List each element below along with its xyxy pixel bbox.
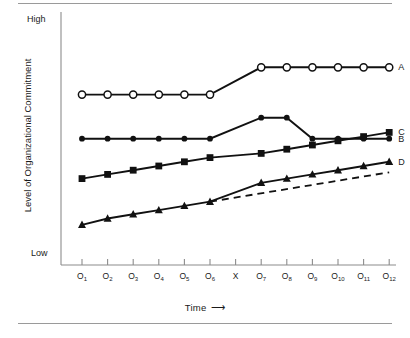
series-b-point-6 xyxy=(207,136,213,142)
series-layer xyxy=(78,64,393,228)
series-b-point-5 xyxy=(182,136,188,142)
series-a-point-5 xyxy=(181,91,188,98)
x-tick-label-o6: O6 xyxy=(205,271,215,281)
x-tick-label-o7: O7 xyxy=(256,271,266,281)
x-tick-label-o11: O11 xyxy=(357,271,370,281)
x-tick-label-x: X xyxy=(233,271,239,281)
series-line-a xyxy=(82,67,389,94)
figure-container: High Low Level of Organizational Commitm… xyxy=(0,0,410,338)
series-a-point-8 xyxy=(283,64,290,71)
series-a-point-2 xyxy=(104,91,111,98)
series-line-b xyxy=(82,118,389,139)
x-axis-ticks xyxy=(82,259,389,265)
series-a-point-7 xyxy=(258,64,265,71)
x-tick-label-o10: O10 xyxy=(331,271,344,281)
x-tick-label-o4: O4 xyxy=(154,271,164,281)
series-a-point-4 xyxy=(155,91,162,98)
series-c-point-7 xyxy=(258,150,265,157)
series-b-point-8 xyxy=(284,115,290,121)
series-c-point-2 xyxy=(104,171,111,178)
series-a-point-6 xyxy=(206,91,213,98)
x-tick-label-o8: O8 xyxy=(282,271,292,281)
series-label-c: C xyxy=(398,127,405,137)
x-tick-label-o5: O5 xyxy=(179,271,189,281)
series-c-point-6 xyxy=(207,154,214,161)
series-b-point-1 xyxy=(79,136,85,142)
chart-plot xyxy=(0,0,410,338)
series-c-point-11 xyxy=(360,133,367,140)
series-a-point-10 xyxy=(334,64,341,71)
series-c-point-5 xyxy=(181,158,188,165)
series-a-point-1 xyxy=(78,91,85,98)
series-b-point-4 xyxy=(156,136,162,142)
series-label-a: A xyxy=(398,62,404,72)
series-b-point-7 xyxy=(258,115,264,121)
x-tick-label-o1: O1 xyxy=(77,271,87,281)
series-c-point-1 xyxy=(79,175,86,182)
x-tick-label-o3: O3 xyxy=(128,271,138,281)
x-tick-label-o9: O9 xyxy=(307,271,317,281)
series-b-point-2 xyxy=(105,136,111,142)
series-a-point-12 xyxy=(386,64,393,71)
series-b-point-12 xyxy=(386,136,392,142)
series-c-point-4 xyxy=(155,163,162,170)
series-a-point-11 xyxy=(360,64,367,71)
series-b-point-3 xyxy=(130,136,136,142)
series-c-point-10 xyxy=(335,137,342,144)
series-c-point-3 xyxy=(130,167,137,174)
series-c-point-8 xyxy=(283,146,290,153)
x-tick-label-o2: O2 xyxy=(103,271,113,281)
series-b-point-9 xyxy=(310,136,316,142)
series-a-point-9 xyxy=(309,64,316,71)
series-c-point-12 xyxy=(386,129,393,136)
series-label-d: D xyxy=(398,157,405,167)
series-a-point-3 xyxy=(130,91,137,98)
series-c-point-9 xyxy=(309,142,316,149)
x-tick-label-o12: O12 xyxy=(383,271,396,281)
